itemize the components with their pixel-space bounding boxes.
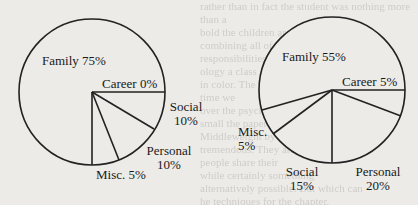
label-misc-right: Misc. 5%	[238, 125, 267, 153]
label-misc-right-name: Misc.	[238, 125, 267, 139]
pie-chart-right	[259, 17, 405, 163]
label-social-left-pct: 10%	[166, 114, 206, 128]
label-social-right: Social 15%	[282, 165, 322, 193]
label-personal-right-pct: 20%	[353, 179, 403, 193]
label-social-left: Social 10%	[166, 100, 206, 128]
label-personal-left-name: Personal	[144, 144, 194, 158]
label-career-right: Career 5%	[342, 75, 397, 89]
label-personal-left: Personal 10%	[144, 144, 194, 172]
label-family-right: Family 55%	[282, 50, 346, 64]
label-personal-right-name: Personal	[353, 165, 403, 179]
label-misc-right-pct: 5%	[238, 139, 267, 153]
label-career-left: Career 0%	[102, 77, 157, 91]
label-misc-left: Misc. 5%	[96, 168, 146, 182]
label-social-right-pct: 15%	[282, 179, 322, 193]
label-personal-left-pct: 10%	[144, 158, 194, 172]
label-social-left-name: Social	[166, 100, 206, 114]
label-family-left: Family 75%	[42, 54, 106, 68]
label-personal-right: Personal 20%	[353, 165, 403, 193]
label-social-right-name: Social	[282, 165, 322, 179]
